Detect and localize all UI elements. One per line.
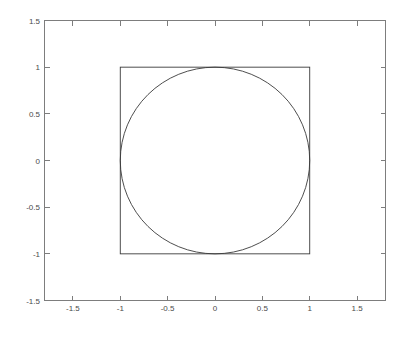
axis-box [45,21,386,301]
y-axis-ticks [45,21,50,301]
x-tick-label: 0 [213,304,218,313]
circle-series [120,67,309,254]
x-tick-label: 1.5 [352,304,364,313]
plot-area: -1.5 -1 -0.5 0 0.5 1 1.5 1.5 1 0.5 0 -0.… [0,0,407,341]
y-tick-label: 1 [36,63,41,72]
x-tick-label: -1 [117,304,125,313]
square-series [120,67,309,254]
y-tick-label: -0.5 [26,203,40,212]
x-axis-ticks-top [73,21,357,26]
figure-canvas: -1.5 -1 -0.5 0 0.5 1 1.5 1.5 1 0.5 0 -0.… [0,0,407,341]
y-tick-label: 1.5 [29,17,41,26]
x-tick-label: 1 [307,304,312,313]
y-tick-label: -1 [33,250,41,259]
x-axis-ticks [73,296,357,301]
y-tick-label: -1.5 [26,297,40,306]
x-axis-tick-labels: -1.5 -1 -0.5 0 0.5 1 1.5 [66,304,363,313]
y-tick-label: 0 [36,157,41,166]
y-axis-tick-labels: 1.5 1 0.5 0 -0.5 -1 -1.5 [26,17,40,306]
x-tick-label: -0.5 [161,304,175,313]
y-tick-label: 0.5 [29,110,41,119]
x-tick-label: -1.5 [66,304,80,313]
y-axis-ticks-right [381,21,386,301]
x-tick-label: 0.5 [257,304,269,313]
